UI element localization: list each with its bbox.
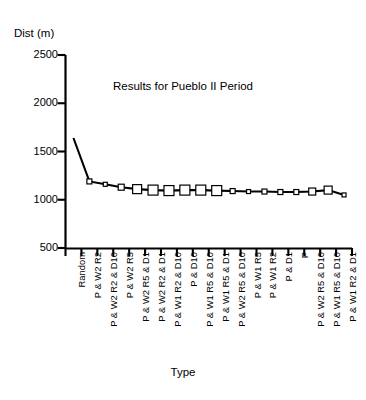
x-tick-label: P & W1 R5 & D10 [205,252,215,327]
data-point-marker [133,185,142,194]
series-line [73,138,344,195]
axes [58,55,353,256]
data-point-marker [196,185,206,195]
x-tick-label: P & W2 R5 & D10 [316,252,326,327]
data-point-marker [118,184,124,190]
x-tick-label: P & W2 R5 & D10 [237,252,247,327]
data-point-marker [324,186,332,194]
data-point-marker [247,190,251,194]
x-tick-label: P & W2 R5 [125,252,135,298]
data-point-marker [148,185,158,195]
x-tick-label: P & W1 R5 & D10 [332,252,342,327]
data-point-marker [230,189,235,194]
data-point-marker [212,186,222,196]
data-point-marker [342,193,346,197]
data-point-marker [278,190,283,195]
data-point-marker [103,182,107,186]
x-axis-tick-labels: RandomP & W2 R2P & W2 R2 & D10P & W2 R5P… [0,252,366,364]
x-tick-label: P & D10 [189,252,199,287]
x-tick-label: P & W1 R5 & D1 [221,252,231,322]
x-tick-label: P & W2 R2 [93,252,103,298]
data-point-marker [87,179,92,184]
x-tick-label: P [300,252,310,258]
x-tick-label: P & W2 R2 & D10 [109,252,119,327]
x-axis-title: Type [0,366,366,378]
data-point-marker [262,189,267,194]
x-tick-label: P & W2 R5 & D1 [141,252,151,322]
data-point-marker [294,190,299,195]
x-tick-label: P & W1 R2 & D10 [173,252,183,327]
data-point-marker [164,186,174,196]
data-series [73,138,346,197]
chart-container: Dist (m) Results for Pueblo II Period 50… [0,0,366,400]
x-tick-label: P & W2 R2 & D1 [157,252,167,322]
x-tick-label: P & D1 [284,252,294,282]
x-tick-label: P & W1 R2 & D1 [348,252,358,322]
x-tick-label: Random [77,252,87,287]
x-tick-label: P & W1 R2 [268,252,278,298]
data-point-marker [309,188,316,195]
y-axis-ticks [58,55,66,248]
x-tick-label: P & W1 R5 [253,252,263,298]
data-point-marker [180,185,190,195]
